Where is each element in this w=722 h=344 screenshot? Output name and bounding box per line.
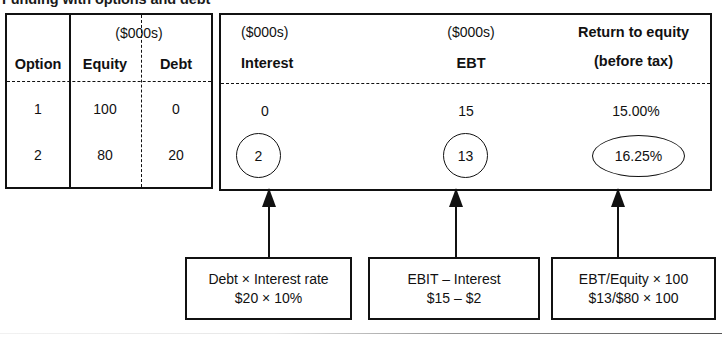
returns-column-header-ebt: EBT <box>381 49 561 77</box>
page-bottom-rule <box>0 333 722 334</box>
returns-row: 15 <box>421 98 511 124</box>
returns-header-separator <box>221 83 710 84</box>
figure-title: Funding with options and debt <box>2 0 422 7</box>
formula-line-1: EBT/Equity × 100 <box>579 270 688 289</box>
highlight-circle-ebt: 13 <box>443 133 488 178</box>
arrow-head-return-to-equity <box>611 188 625 207</box>
table-row: 2 <box>7 141 69 169</box>
arrow-head-interest <box>262 188 276 207</box>
returns-panel: ($000s) Interest ($000s) EBT Return to e… <box>219 13 712 191</box>
formula-line-1: EBIT – Interest <box>407 270 500 289</box>
returns-column-unit-interest: ($000s) <box>229 19 391 45</box>
formula-line-2: $13/$80 × 100 <box>589 289 679 308</box>
arrow-stem-return-to-equity <box>617 205 619 258</box>
table-row: 100 <box>69 95 141 123</box>
formula-box-ebt: EBIT – Interest $15 – $2 <box>368 257 540 320</box>
left-table-unit-header: ($000s) <box>69 19 209 47</box>
column-header-option: Option <box>7 49 69 79</box>
table-row: 20 <box>141 141 211 169</box>
column-header-debt: Debt <box>141 49 211 79</box>
highlight-circle-interest: 2 <box>236 133 281 178</box>
table-header-separator <box>7 81 211 82</box>
returns-column-header-return-line2: (before tax) <box>561 47 706 75</box>
formula-line-2: $15 – $2 <box>427 289 482 308</box>
formula-line-1: Debt × Interest rate <box>208 270 328 289</box>
table-row: 1 <box>7 95 69 123</box>
returns-row: 0 <box>229 98 301 124</box>
funding-options-table: ($000s) Option Equity Debt 1 100 0 2 80 … <box>5 13 213 189</box>
returns-row: 15.00% <box>576 98 696 124</box>
formula-box-interest: Debt × Interest rate $20 × 10% <box>185 257 352 320</box>
formula-line-2: $20 × 10% <box>235 289 302 308</box>
arrow-stem-ebt <box>455 205 457 258</box>
formula-box-return-to-equity: EBT/Equity × 100 $13/$80 × 100 <box>551 257 716 320</box>
table-row: 80 <box>69 141 141 169</box>
highlight-ellipse-return-to-equity: 16.25% <box>592 135 685 177</box>
figure-root: Funding with options and debt ($000s) Op… <box>0 0 722 344</box>
returns-column-unit-ebt: ($000s) <box>381 19 561 45</box>
arrow-stem-interest <box>268 205 270 258</box>
table-row: 0 <box>141 95 211 123</box>
returns-column-header-interest: Interest <box>229 49 391 77</box>
arrow-head-ebt <box>449 188 463 207</box>
column-header-equity: Equity <box>69 49 141 79</box>
returns-column-header-return-line1: Return to equity <box>561 19 706 45</box>
